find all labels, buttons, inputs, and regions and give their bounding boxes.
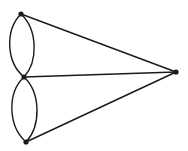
graph-diagram — [0, 0, 188, 151]
node-c — [23, 139, 28, 144]
node-b — [21, 74, 26, 79]
edge-a-b-right — [21, 14, 34, 77]
edge-a-d — [21, 14, 176, 72]
edge-b-d — [24, 72, 176, 77]
node-a — [18, 11, 23, 16]
edge-b-c-right — [24, 77, 37, 142]
edge-c-d — [26, 72, 176, 142]
node-d — [173, 69, 178, 74]
edge-b-c-left — [12, 77, 26, 142]
edge-a-b-left — [10, 14, 24, 77]
